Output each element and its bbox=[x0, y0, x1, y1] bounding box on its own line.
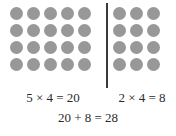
equation-left-group: 5 × 4 = 20 bbox=[0, 90, 106, 106]
dot-row-right bbox=[113, 41, 160, 58]
equation-total: 20 + 8 = 28 bbox=[0, 110, 176, 126]
dot bbox=[44, 7, 57, 20]
dot bbox=[27, 24, 40, 37]
dot-row-right bbox=[113, 58, 160, 75]
dot-row-right bbox=[113, 24, 160, 41]
dot bbox=[61, 24, 74, 37]
dot bbox=[27, 7, 40, 20]
dot bbox=[113, 58, 126, 71]
dot-row-left bbox=[10, 24, 91, 41]
dot bbox=[147, 41, 160, 54]
dot bbox=[130, 41, 143, 54]
dot bbox=[147, 7, 160, 20]
dot bbox=[78, 7, 91, 20]
dot bbox=[61, 7, 74, 20]
dot bbox=[78, 41, 91, 54]
dot-group-right bbox=[113, 7, 160, 75]
dot bbox=[44, 24, 57, 37]
dot-row-right bbox=[113, 7, 160, 24]
dot bbox=[78, 24, 91, 37]
dot bbox=[130, 24, 143, 37]
dot bbox=[113, 41, 126, 54]
dot bbox=[147, 58, 160, 71]
dot bbox=[130, 58, 143, 71]
dot bbox=[61, 58, 74, 71]
dot bbox=[113, 7, 126, 20]
equation-right-group: 2 × 4 = 8 bbox=[108, 90, 176, 106]
dot bbox=[113, 24, 126, 37]
dot-row-left bbox=[10, 41, 91, 58]
vertical-divider-line bbox=[106, 3, 108, 88]
dot bbox=[130, 7, 143, 20]
dot bbox=[147, 24, 160, 37]
dot-group-left bbox=[10, 7, 91, 75]
dot bbox=[10, 24, 23, 37]
dot-array bbox=[0, 0, 176, 88]
dot bbox=[10, 58, 23, 71]
dot bbox=[44, 41, 57, 54]
dot-row-left bbox=[10, 7, 91, 24]
dot bbox=[10, 41, 23, 54]
dot bbox=[10, 7, 23, 20]
dot-row-left bbox=[10, 58, 91, 75]
dot bbox=[44, 58, 57, 71]
dot bbox=[61, 41, 74, 54]
array-diagram: 5 × 4 = 20 2 × 4 = 8 20 + 8 = 28 bbox=[0, 0, 176, 136]
dot bbox=[27, 58, 40, 71]
dot bbox=[27, 41, 40, 54]
dot bbox=[78, 58, 91, 71]
